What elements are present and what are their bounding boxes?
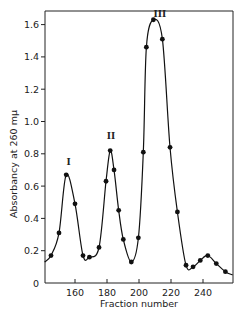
data-point <box>121 237 126 242</box>
x-axis-title: Fraction number <box>100 298 178 309</box>
data-point <box>97 245 102 250</box>
y-tick-label: 0.4 <box>24 213 39 224</box>
peak-label: III <box>153 9 166 19</box>
data-point <box>205 253 210 258</box>
data-point <box>49 253 54 258</box>
data-point <box>129 260 134 265</box>
data-point <box>108 148 113 153</box>
y-tick-label: 0.8 <box>24 148 39 159</box>
peak-label: I <box>66 157 70 167</box>
y-axis-ticks: 00.20.40.60.81.01.21.41.6 <box>24 19 45 288</box>
data-point <box>57 231 62 236</box>
x-tick-label: 160 <box>66 287 84 298</box>
axis-frame <box>45 11 233 283</box>
data-point <box>81 253 86 258</box>
data-points <box>49 17 228 274</box>
data-point <box>160 37 165 42</box>
data-point <box>104 179 109 184</box>
data-point <box>198 258 203 263</box>
data-point <box>214 261 219 266</box>
y-tick-label: 0.6 <box>24 181 39 192</box>
data-point <box>141 150 146 155</box>
x-axis-ticks: 160180200220240 <box>66 279 212 298</box>
y-tick-label: 1.4 <box>24 51 39 62</box>
y-tick-label: 0.2 <box>24 245 39 256</box>
peak-label: II <box>107 131 115 141</box>
x-tick-label: 200 <box>130 287 148 298</box>
data-point <box>112 168 117 173</box>
data-point <box>223 269 228 274</box>
x-tick-label: 220 <box>162 287 180 298</box>
y-tick-label: 1.6 <box>24 19 39 30</box>
y-tick-label: 0 <box>33 278 39 289</box>
data-point <box>116 208 121 213</box>
x-tick-label: 180 <box>98 287 116 298</box>
data-point <box>191 264 196 269</box>
y-axis-title: Absorbancy at 260 mμ <box>8 110 19 218</box>
x-tick-label: 240 <box>194 287 212 298</box>
y-tick-label: 1.0 <box>24 116 39 127</box>
data-point <box>168 145 173 150</box>
data-point <box>136 235 141 240</box>
plot-frame <box>45 11 233 283</box>
data-point <box>144 45 149 50</box>
data-point <box>184 263 189 268</box>
data-point <box>175 210 180 215</box>
data-point <box>64 172 69 177</box>
absorbancy-chart: 00.20.40.60.81.01.21.41.6 16018020022024… <box>0 0 240 316</box>
data-point <box>73 201 78 206</box>
peak-labels: IIIIII <box>66 9 166 168</box>
data-point <box>87 255 92 260</box>
y-tick-label: 1.2 <box>24 84 39 95</box>
